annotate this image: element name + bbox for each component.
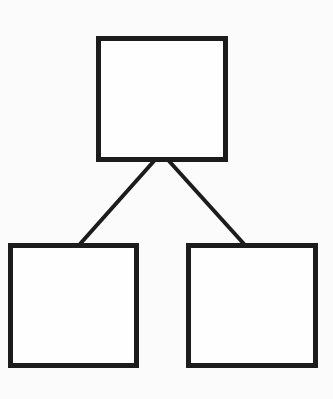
left-child-node-box <box>8 243 139 368</box>
edge-root-to-right-child <box>169 161 244 244</box>
right-child-node-box <box>186 243 318 368</box>
edge-root-to-left-child <box>80 161 154 244</box>
root-node-box <box>96 36 228 162</box>
tree-diagram <box>0 0 333 399</box>
